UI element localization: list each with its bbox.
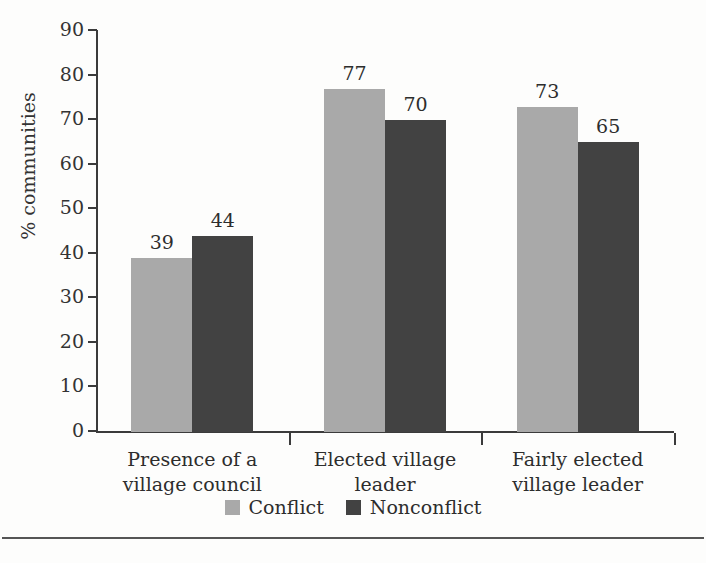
legend-label: Nonconflict (370, 498, 482, 517)
bar-nonconflict-1 (385, 120, 446, 432)
y-tick-label: 20 (40, 332, 84, 351)
y-tick-label: 50 (40, 198, 84, 217)
x-tick-mark (481, 433, 483, 445)
y-tick-label: 90 (40, 20, 84, 39)
y-axis-title: % communities (17, 76, 39, 256)
bar-value-label: 39 (121, 233, 202, 252)
bar-conflict-0 (131, 258, 192, 432)
category-label-1: Elected villageleader (289, 447, 482, 497)
y-tick-label: 0 (40, 421, 84, 440)
x-axis-end-tick (674, 433, 676, 445)
bar-nonconflict-2 (578, 142, 639, 432)
y-tick-label: 10 (40, 376, 84, 395)
bar-value-label: 73 (507, 82, 588, 101)
category-label-line: Fairly elected (481, 447, 674, 472)
y-tick-label: 30 (40, 287, 84, 306)
bar-conflict-1 (324, 89, 385, 432)
legend-label: Conflict (249, 498, 324, 517)
category-label-line: village leader (481, 472, 674, 497)
bar-value-label: 70 (375, 95, 456, 114)
category-label-line: leader (289, 472, 482, 497)
category-label-line: Elected village (289, 447, 482, 472)
bars-layer: 394477707365 (96, 30, 674, 432)
bar-value-label: 44 (182, 211, 263, 230)
y-tick-label: 40 (40, 243, 84, 262)
category-label-line: village council (96, 472, 289, 497)
category-label-line: Presence of a (96, 447, 289, 472)
legend-swatch-icon (346, 500, 361, 515)
bar-conflict-2 (517, 107, 578, 432)
legend-swatch-icon (225, 500, 240, 515)
y-tick-label: 80 (40, 65, 84, 84)
y-tick-label: 70 (40, 109, 84, 128)
y-tick-label: 60 (40, 154, 84, 173)
bottom-divider (2, 537, 704, 539)
bar-nonconflict-0 (192, 236, 253, 432)
x-tick-mark (289, 433, 291, 445)
bar-value-label: 65 (568, 117, 649, 136)
legend-item-conflict[interactable]: Conflict (225, 498, 324, 517)
bar-value-label: 77 (314, 64, 395, 83)
legend-item-nonconflict[interactable]: Nonconflict (346, 498, 482, 517)
chart-figure: % communities 9080706050403020100 394477… (0, 0, 706, 563)
chart-legend: ConflictNonconflict (0, 498, 706, 517)
category-label-2: Fairly electedvillage leader (481, 447, 674, 497)
category-label-0: Presence of avillage council (96, 447, 289, 497)
